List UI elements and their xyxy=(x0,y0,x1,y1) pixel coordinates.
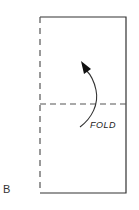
sheet-solid-edges xyxy=(40,17,126,193)
panel-label: B xyxy=(3,183,10,195)
fold-arrow-curve xyxy=(80,70,97,127)
fold-diagram-graphic xyxy=(0,0,139,210)
fold-label: FOLD xyxy=(90,120,116,130)
fold-arrow-head-icon xyxy=(81,61,91,74)
fold-diagram: FOLD B xyxy=(0,0,139,210)
